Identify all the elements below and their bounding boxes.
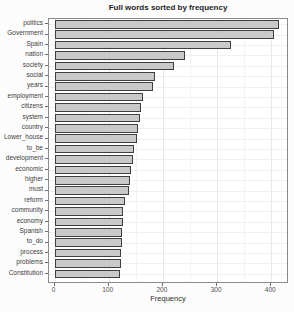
y-axis-tick bbox=[45, 44, 49, 45]
y-axis-label: to_be bbox=[0, 144, 43, 152]
y-axis-label: nation bbox=[0, 50, 43, 58]
y-axis-label: economy bbox=[0, 217, 43, 225]
y-axis-label: years bbox=[0, 81, 43, 89]
bar bbox=[55, 62, 174, 71]
x-axis-tick-label: 200 bbox=[150, 286, 174, 294]
y-axis-label: problems bbox=[0, 258, 43, 266]
bar bbox=[55, 114, 140, 123]
y-axis-tick bbox=[45, 23, 49, 24]
y-axis-label: Spanish bbox=[0, 227, 43, 235]
y-axis-label: reform bbox=[0, 196, 43, 204]
y-axis-tick bbox=[45, 117, 49, 118]
x-axis-tick-label: 0 bbox=[42, 286, 66, 294]
x-axis-tick-label: 300 bbox=[204, 286, 228, 294]
bar bbox=[55, 72, 156, 81]
bar bbox=[55, 238, 122, 247]
y-axis-label: employment bbox=[0, 92, 43, 100]
y-axis-tick bbox=[45, 158, 49, 159]
y-axis-tick bbox=[45, 106, 49, 107]
y-axis-tick bbox=[45, 200, 49, 201]
x-axis-title: Frequency bbox=[48, 294, 288, 303]
y-axis-tick bbox=[45, 65, 49, 66]
y-axis-tick bbox=[45, 34, 49, 35]
bar bbox=[55, 20, 280, 29]
bar bbox=[55, 259, 121, 268]
y-axis-tick bbox=[45, 138, 49, 139]
y-axis-tick bbox=[45, 262, 49, 263]
y-axis-label: country bbox=[0, 123, 43, 131]
y-axis-label: process bbox=[0, 248, 43, 256]
y-axis-label: must bbox=[0, 185, 43, 193]
bar bbox=[55, 51, 185, 60]
y-axis-tick bbox=[45, 169, 49, 170]
y-axis-tick bbox=[45, 75, 49, 76]
chart-title: Full words sorted by frequency bbox=[48, 3, 288, 12]
y-axis-label: citizens bbox=[0, 102, 43, 110]
y-axis-tick bbox=[45, 273, 49, 274]
y-axis-tick bbox=[45, 221, 49, 222]
y-axis-label: to_do bbox=[0, 237, 43, 245]
plot-panel bbox=[48, 18, 288, 284]
y-axis-label: economic bbox=[0, 165, 43, 173]
y-axis-tick bbox=[45, 210, 49, 211]
bar bbox=[55, 228, 123, 237]
y-axis-tick bbox=[45, 231, 49, 232]
y-axis-label: Spain bbox=[0, 40, 43, 48]
y-axis-tick bbox=[45, 242, 49, 243]
bar bbox=[55, 30, 275, 39]
y-axis-tick bbox=[45, 96, 49, 97]
bar bbox=[55, 134, 137, 143]
y-axis-label: Lower_house bbox=[0, 133, 43, 141]
y-axis-tick bbox=[45, 86, 49, 87]
bar bbox=[55, 93, 144, 102]
y-axis-label: community bbox=[0, 206, 43, 214]
bar bbox=[55, 41, 231, 50]
bar bbox=[55, 207, 124, 216]
y-axis-label: politics bbox=[0, 19, 43, 27]
y-axis-label: system bbox=[0, 113, 43, 121]
bar bbox=[55, 186, 129, 195]
bar bbox=[55, 82, 153, 91]
y-axis-tick bbox=[45, 54, 49, 55]
bar bbox=[55, 103, 141, 112]
y-axis-label: Government bbox=[0, 29, 43, 37]
y-axis-label: development bbox=[0, 154, 43, 162]
y-axis-label: social bbox=[0, 71, 43, 79]
y-axis-tick bbox=[45, 252, 49, 253]
y-axis-tick bbox=[45, 127, 49, 128]
bar bbox=[55, 145, 134, 154]
bar bbox=[55, 270, 121, 279]
bar bbox=[55, 249, 122, 258]
y-axis-label: society bbox=[0, 61, 43, 69]
y-axis-tick bbox=[45, 148, 49, 149]
x-axis-tick-label: 100 bbox=[96, 286, 120, 294]
frequency-bar-chart: Full words sorted by frequency politicsG… bbox=[0, 0, 294, 312]
bar bbox=[55, 176, 131, 185]
bar bbox=[55, 124, 138, 133]
bar bbox=[55, 166, 132, 175]
y-axis-tick bbox=[45, 179, 49, 180]
x-axis-tick-label: 400 bbox=[258, 286, 282, 294]
y-axis-label: Constitution bbox=[0, 269, 43, 277]
y-axis-tick bbox=[45, 190, 49, 191]
y-axis-label: higher bbox=[0, 175, 43, 183]
bar bbox=[55, 197, 125, 206]
bar bbox=[55, 155, 133, 164]
bar bbox=[55, 218, 123, 227]
